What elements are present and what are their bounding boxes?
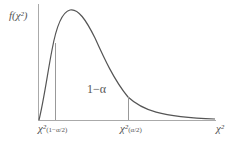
- area-label: 1−α: [87, 82, 106, 97]
- subscript: (1−α/2): [46, 126, 67, 134]
- density-curve: [39, 10, 215, 120]
- chi-symbol: χ²: [38, 122, 46, 134]
- x-axis-label: χ²: [216, 122, 224, 134]
- critical-value-right-label: χ²(α/2): [120, 122, 142, 134]
- chi-symbol: χ²: [120, 122, 128, 134]
- critical-value-left-label: χ²(1−α/2): [38, 122, 67, 134]
- y-axis-label: f(χ²): [9, 9, 28, 21]
- subscript: (α/2): [128, 126, 142, 134]
